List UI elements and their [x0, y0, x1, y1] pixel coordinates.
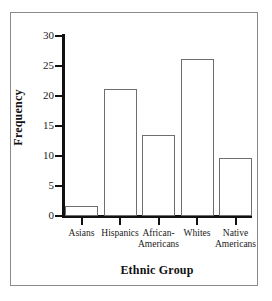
x-axis-tick: [158, 218, 160, 225]
bar: [219, 158, 252, 216]
y-axis-tick: [55, 215, 63, 217]
y-axis-tick-label: 15: [28, 120, 54, 131]
y-axis-tick-label: 20: [28, 90, 54, 101]
y-axis-tick-label-slot: 5: [24, 180, 54, 191]
y-axis-tick-label: 5: [28, 180, 54, 191]
y-axis-tick-label: 30: [28, 30, 54, 41]
x-axis-tick-label: NativeAmericans: [203, 228, 269, 250]
x-axis-title: Ethnic Group: [62, 263, 252, 278]
y-axis-tick-label-slot: 20: [24, 90, 54, 101]
y-axis-tick: [55, 35, 63, 37]
bar: [65, 206, 98, 216]
x-axis-tick: [81, 218, 83, 225]
x-axis-tick-label-line: Americans: [203, 239, 269, 250]
y-axis-title: Frequency: [11, 78, 26, 158]
x-axis-tick-label-line: Native: [203, 228, 269, 239]
y-axis-tick: [55, 185, 63, 187]
bar: [142, 135, 175, 216]
y-axis-tick-label-slot: 10: [24, 150, 54, 161]
y-axis-tick: [55, 95, 63, 97]
y-axis-tick-label: 10: [28, 150, 54, 161]
y-axis-tick-label-slot: 30: [24, 30, 54, 41]
y-axis-tick: [55, 125, 63, 127]
x-axis-tick: [119, 218, 121, 225]
y-axis-tick-label: 0: [28, 210, 54, 221]
bar: [104, 89, 137, 216]
y-axis-tick-label: 25: [28, 60, 54, 71]
x-axis-tick: [235, 218, 237, 225]
x-axis-tick-label-line: Americans: [126, 239, 192, 250]
x-axis-tick: [196, 218, 198, 225]
y-axis-tick-label-slot: 0: [24, 210, 54, 221]
y-axis-tick-label-slot: 15: [24, 120, 54, 131]
y-axis-tick-label-slot: 25: [24, 60, 54, 71]
y-axis-tick: [55, 65, 63, 67]
figure-canvas: 051015202530 AsiansHispanicsAfrican-Amer…: [0, 0, 272, 301]
y-axis-tick: [55, 155, 63, 157]
bar: [181, 59, 214, 216]
